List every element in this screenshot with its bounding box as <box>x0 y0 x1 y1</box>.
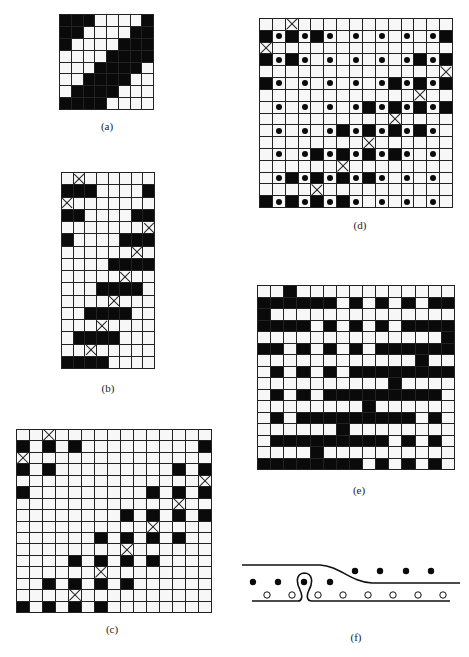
panel-f-label: (f) <box>351 631 362 643</box>
upper-curve-line <box>242 565 460 583</box>
filled-dot-icon <box>403 568 409 574</box>
filled-dot-icon <box>301 579 307 585</box>
filled-dot-icon <box>352 568 358 574</box>
open-circle-icon <box>264 592 270 598</box>
filled-dot-icon <box>428 568 434 574</box>
filled-dot-icon <box>250 579 256 585</box>
open-circle-icon <box>365 592 371 598</box>
filled-dot-icon <box>275 579 281 585</box>
filled-dot-icon <box>327 579 333 585</box>
open-circle-icon <box>340 592 346 598</box>
panel-f-diagram <box>0 0 469 657</box>
open-circle-icon <box>440 592 446 598</box>
open-circle-icon <box>390 592 396 598</box>
open-circle-icon <box>415 592 421 598</box>
open-circle-icon <box>315 592 321 598</box>
open-circle-icon <box>289 592 295 598</box>
filled-dot-icon <box>377 568 383 574</box>
